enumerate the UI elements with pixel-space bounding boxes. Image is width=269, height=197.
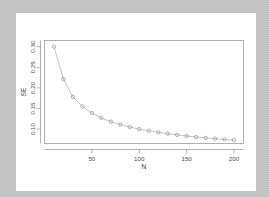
y-tick-labels: 0.100.150.200.250.30 [29,40,36,135]
x-tick-label: 200 [229,155,240,162]
x-tick-label: 150 [181,155,192,162]
y-tick-label: 0.25 [29,61,36,74]
y-tick-label: 0.20 [29,81,36,94]
x-axis: 50100150200 [45,150,244,163]
y-tick-label: 0.30 [29,40,36,53]
plot-card: 0.100.150.200.250.30 50100150200 N SE [16,13,256,191]
y-axis: 0.100.150.200.250.30 [29,40,41,143]
x-tick-label: 100 [134,155,145,162]
x-tick-marks [92,150,234,154]
chart-canvas: 0.100.150.200.250.30 50100150200 N SE [16,13,256,191]
y-axis-title: SE [20,87,27,96]
series-line [54,47,234,140]
x-tick-labels: 50100150200 [88,155,239,162]
plot-frame [45,41,244,144]
series-points [52,45,235,142]
screenshot-root: 0.100.150.200.250.30 50100150200 N SE [0,0,269,197]
y-tick-marks [37,47,41,129]
y-tick-label: 0.10 [29,123,36,136]
y-tick-label: 0.15 [29,102,36,115]
x-axis-title: N [142,163,147,170]
x-tick-label: 50 [88,155,95,162]
